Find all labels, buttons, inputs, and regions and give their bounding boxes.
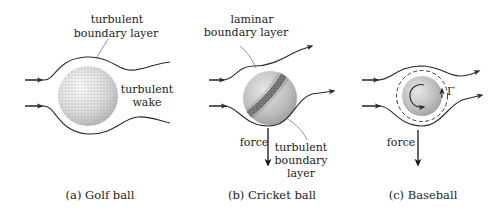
caption-baseball: (c) Baseball bbox=[389, 188, 458, 202]
cricket-turbulent-label-2: boundary bbox=[275, 154, 329, 167]
panel-golf-ball: turbulent boundary layer turbulent wake … bbox=[25, 13, 174, 202]
figure-canvas: turbulent boundary layer turbulent wake … bbox=[0, 0, 504, 212]
caption-cricket-ball: (b) Cricket ball bbox=[228, 188, 316, 202]
panel-cricket-ball: force laminar boundary layer turbulent b… bbox=[204, 13, 334, 202]
cricket-laminar-label-2: boundary layer bbox=[204, 26, 289, 39]
golf-boundary-label-1: turbulent bbox=[91, 13, 144, 26]
golf-ball bbox=[58, 66, 118, 126]
circulation-label: Γ bbox=[447, 85, 455, 98]
baseball-force-label: force bbox=[387, 136, 416, 149]
golf-wake-label-2: wake bbox=[132, 96, 161, 109]
cricket-turbulent-leader bbox=[286, 118, 307, 140]
cricket-force-label: force bbox=[240, 136, 269, 149]
caption-golf-ball: (a) Golf ball bbox=[66, 188, 135, 202]
cricket-laminar-leader bbox=[240, 46, 256, 68]
cricket-laminar-label-1: laminar bbox=[231, 13, 275, 26]
panel-baseball: Γ force (c) Baseball bbox=[362, 66, 482, 202]
golf-wake-label-1: turbulent bbox=[121, 83, 174, 96]
cricket-turbulent-label-1: turbulent bbox=[275, 141, 328, 154]
cricket-turbulent-label-3: layer bbox=[287, 167, 316, 180]
golf-boundary-label-2: boundary layer bbox=[74, 27, 159, 40]
baseball bbox=[402, 76, 442, 116]
golf-boundary-leader bbox=[96, 39, 108, 59]
